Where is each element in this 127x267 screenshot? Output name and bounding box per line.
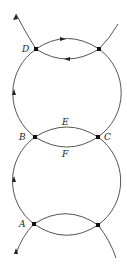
bottom-right-arc — [98, 225, 116, 258]
point-lower-right — [96, 223, 100, 227]
label-C: C — [104, 132, 111, 142]
point-B — [33, 135, 37, 139]
upper-lens-top-arc — [36, 39, 99, 50]
label-F: F — [61, 149, 69, 159]
arrow-icon — [64, 57, 70, 61]
arrow-icon — [60, 37, 66, 41]
bottom-lens-lower-arc — [34, 224, 98, 235]
point-D — [34, 47, 38, 51]
label-A: A — [18, 219, 26, 229]
label-B: B — [18, 132, 26, 142]
label-E: E — [61, 117, 69, 127]
point-A — [32, 222, 36, 226]
label-D: D — [21, 44, 29, 54]
point-C — [96, 135, 100, 139]
top-right-arc — [99, 24, 118, 49]
circle-path-diagram: D B C E F A — [0, 0, 127, 267]
point-upper-right — [97, 47, 101, 51]
